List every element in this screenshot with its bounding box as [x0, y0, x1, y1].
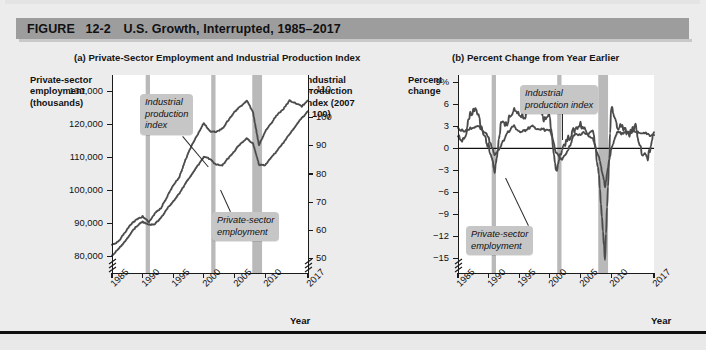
callout-line: Industrial — [525, 88, 593, 100]
y-axis-tick-label: −3 — [423, 165, 449, 175]
callout-line: employment — [217, 227, 274, 239]
y-axis-tick-label: −15 — [423, 253, 449, 263]
y-axis-tick-label: 100,000 — [57, 185, 103, 195]
y-axis-tick — [107, 190, 112, 191]
callout-panel-b-industrial-production-index: Industrialproduction index — [520, 85, 598, 114]
y-axis-tick-label: 70 — [316, 197, 340, 207]
figure-container: FIGURE 12-2 U.S. Growth, Interrupted, 19… — [0, 0, 706, 350]
figure-label-prefix: FIGURE — [27, 22, 75, 36]
header-band-shadow — [19, 39, 692, 42]
plot-left-axis-line — [112, 75, 113, 273]
y-axis-tick-label: 90,000 — [57, 218, 103, 228]
y-axis-tick — [453, 236, 458, 237]
y-axis-tick — [107, 157, 112, 158]
y-axis-tick — [107, 223, 112, 224]
figure-header-text: FIGURE 12-2 U.S. Growth, Interrupted, 19… — [27, 19, 341, 39]
frame-left-edge — [0, 0, 5, 334]
y-axis-tick-label: 80 — [316, 169, 340, 179]
panel-a-x-axis-title: Year — [290, 315, 310, 326]
y-axis-tick — [453, 192, 458, 193]
frame-top-edge — [0, 0, 706, 4]
y-axis-tick-label: 6 — [423, 99, 449, 109]
y-axis-tick — [107, 256, 112, 257]
y-axis-tick — [453, 104, 458, 105]
y-axis-tick-label: 80,000 — [57, 251, 103, 261]
y-axis-tick-label: 60 — [316, 225, 340, 235]
y-axis-tick — [453, 214, 458, 215]
y-axis-tick-right — [308, 145, 313, 146]
panel-b-x-axis-title: Year — [651, 315, 671, 326]
y-axis-tick-label: 0 — [423, 143, 449, 153]
callout-line: index — [145, 120, 188, 132]
callout-line: Private-sector — [471, 229, 528, 241]
frame-below-area — [0, 334, 706, 350]
y-axis-tick-label: 50 — [316, 253, 340, 263]
y-axis-tick — [453, 170, 458, 171]
axis-break-symbol — [453, 258, 465, 274]
callout-line: Industrial — [145, 97, 188, 109]
y-axis-tick-label: 110,000 — [57, 152, 103, 162]
y-axis-tick-right — [308, 230, 313, 231]
y-axis-tick-label: −6 — [423, 187, 449, 197]
panel-a-caption: (a) Private-Sector Employment and Indust… — [74, 52, 360, 63]
panel-a-y-right-title-line3: index (2007 — [304, 98, 355, 109]
y-axis-tick-label: −9 — [423, 209, 449, 219]
y-axis-tick-label: 3 — [423, 121, 449, 131]
axis-break-symbol — [107, 258, 119, 274]
y-axis-tick-right — [308, 89, 313, 90]
y-axis-tick — [453, 148, 458, 149]
axis-break-symbol — [303, 258, 315, 274]
callout-panel-a-industrial-production-index: Industrialproductionindex — [140, 94, 193, 135]
callout-leader-line — [562, 110, 563, 140]
callout-line: Private-sector — [217, 215, 274, 227]
figure-number: 12-2 — [85, 22, 110, 36]
y-axis-tick — [453, 82, 458, 83]
y-axis-tick-label: 130,000 — [57, 86, 103, 96]
y-axis-tick — [107, 91, 112, 92]
callout-line: employment — [471, 241, 528, 253]
y-axis-tick-label: 100 — [316, 112, 340, 122]
y-axis-tick-right — [308, 117, 313, 118]
plot-left-axis-line — [458, 75, 459, 273]
y-axis-tick — [107, 124, 112, 125]
panel-b-y-title-line2: change — [408, 86, 442, 97]
callout-line: production — [145, 109, 188, 121]
callout-line: production index — [525, 100, 593, 112]
callout-panel-a-private-sector-employment: Private-sectoremployment — [212, 212, 279, 241]
y-axis-tick-right — [308, 173, 313, 174]
y-axis-tick — [453, 126, 458, 127]
y-axis-tick-label: −12 — [423, 231, 449, 241]
frame-right-edge — [700, 0, 706, 334]
panel-b-caption: (b) Percent Change from Year Earlier — [452, 52, 619, 63]
figure-title: U.S. Growth, Interrupted, 1985–2017 — [123, 22, 340, 36]
y-axis-tick-label: 90 — [316, 140, 340, 150]
y-axis-tick-right — [308, 202, 313, 203]
y-axis-tick-label: 9% — [423, 77, 449, 87]
panel-a-y-left-title-line3: (thousands) — [30, 98, 92, 109]
callout-panel-b-private-sector-employment: Private-sectoremployment — [466, 226, 533, 255]
y-axis-tick-label: 110 — [316, 84, 340, 94]
y-axis-tick-label: 120,000 — [57, 119, 103, 129]
